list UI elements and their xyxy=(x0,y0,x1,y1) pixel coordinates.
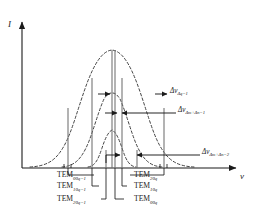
tem-10q-1-subscript: 10q−1 xyxy=(73,187,86,192)
tem-00q-1-subscript: 00q−1 xyxy=(73,176,86,181)
x-axis-label: ν xyxy=(240,172,244,181)
tem-10q-subscript: 10q xyxy=(150,187,157,192)
mode-label-tem-00q: TEM00q xyxy=(134,195,157,205)
spectral-lines xyxy=(68,50,164,168)
annotation-dq1-subscript: Δq=1 xyxy=(177,91,187,96)
tem-20q-subscript: 20q xyxy=(150,176,157,181)
measurement-arrows xyxy=(98,94,200,163)
tem-10q-1-base: TEM xyxy=(57,181,73,190)
annotation-dmdn1-subscript: Δm+Δn=1 xyxy=(185,110,205,115)
y-axis-label: I xyxy=(8,20,11,29)
mode-label-tem-10q-1: TEM10q−1 xyxy=(57,182,86,192)
leader-tem00q xyxy=(115,168,124,199)
annotation-dmdn2-subscript: Δm+Δn=2 xyxy=(209,152,229,157)
tem-10q-base: TEM xyxy=(134,181,150,190)
tem-20q-1-base: TEM xyxy=(57,194,73,203)
annotation-delta-nu-dm-dn-2: ΔνΔm+Δn=2 xyxy=(202,149,229,158)
annotation-delta-nu-dq1: ΔνΔq=1 xyxy=(170,88,188,97)
tem-00q-1-base: TEM xyxy=(57,170,73,179)
mode-label-tem-20q-1: TEM20q−1 xyxy=(57,195,86,205)
tem-00q-base: TEM xyxy=(134,194,150,203)
mode-label-tem-00q-1: TEM00q−1 xyxy=(57,171,86,181)
annotation-delta-nu-dm-dn-1: ΔνΔm+Δn=1 xyxy=(178,107,205,116)
leader-tem20q-1 xyxy=(101,168,106,199)
laser-mode-spectrum-figure: I ν ΔνΔq=1 ΔνΔm+Δn=1 ΔνΔm+Δn=2 TEM00q−1 … xyxy=(0,0,261,213)
leader-tem10q-1 xyxy=(92,168,99,186)
leader-tem10q xyxy=(122,168,127,186)
tem-20q-base: TEM xyxy=(134,170,150,179)
mode-label-tem-20q: TEM20q xyxy=(134,171,157,181)
mode-label-tem-10q: TEM10q xyxy=(134,182,157,192)
tem-00q-subscript: 00q xyxy=(150,200,157,205)
tem-20q-1-subscript: 20q−1 xyxy=(73,200,86,205)
axis-group xyxy=(22,22,236,168)
spectrum-plot-svg xyxy=(0,0,261,213)
